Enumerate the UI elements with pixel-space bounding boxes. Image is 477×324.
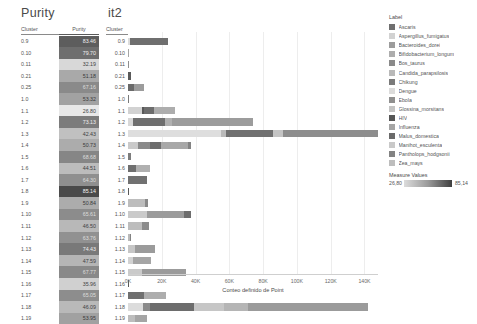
purity-row[interactable]: 1.342.43 — [21, 128, 99, 140]
legend-item[interactable]: Ascaris — [389, 23, 475, 32]
chart-row[interactable]: 1.4 — [106, 139, 380, 151]
bar-segment[interactable] — [128, 130, 221, 137]
chart-row-bar[interactable] — [128, 199, 380, 206]
chart-row-bar[interactable] — [128, 142, 380, 149]
legend-item[interactable]: Aspergillus_fumigatus — [389, 32, 475, 41]
chart-row-bar[interactable] — [128, 234, 380, 241]
bar-segment[interactable] — [150, 142, 161, 149]
chart-row[interactable]: 1.8 — [106, 186, 380, 198]
chart-row[interactable]: 1.2 — [106, 116, 380, 128]
purity-row[interactable]: 1.053.32 — [21, 93, 99, 105]
legend-item[interactable]: Bos_taurus — [389, 59, 475, 68]
bar-segment[interactable] — [143, 303, 150, 310]
bar-segment[interactable] — [128, 107, 142, 114]
chart-row-bar[interactable] — [128, 245, 380, 252]
chart-row[interactable]: 1.6 — [106, 163, 380, 175]
purity-row[interactable]: 1.568.68 — [21, 151, 99, 163]
purity-row[interactable]: 1.950.84 — [21, 197, 99, 209]
chart-row-bar[interactable] — [128, 118, 380, 125]
bar-segment[interactable] — [138, 142, 150, 149]
bar-segment[interactable] — [128, 165, 136, 172]
legend-item[interactable]: Malus_domestica — [389, 132, 475, 141]
legend-item[interactable]: Ebola — [389, 95, 475, 104]
chart-row-bar[interactable] — [128, 61, 380, 68]
bar-segment[interactable] — [135, 245, 155, 252]
purity-row[interactable]: 1.126.80 — [21, 105, 99, 117]
chart-row-bar[interactable] — [128, 211, 380, 218]
bar-segment[interactable] — [128, 245, 135, 252]
chart-row-bar[interactable] — [128, 153, 380, 160]
legend-item[interactable]: Candida_parapsilosis — [389, 68, 475, 77]
purity-row[interactable]: 0.2151.18 — [21, 70, 99, 82]
chart-row-bar[interactable] — [128, 222, 380, 229]
bar-segment[interactable] — [144, 107, 155, 114]
chart-row-bar[interactable] — [128, 188, 380, 195]
bar-segment[interactable] — [128, 142, 138, 149]
bar-segment[interactable] — [150, 303, 194, 310]
purity-row[interactable]: 1.1846.09 — [21, 301, 99, 313]
chart-row-bar[interactable] — [128, 72, 380, 79]
chart-row[interactable]: 1.12 — [106, 232, 380, 244]
chart-row[interactable]: 0.25 — [106, 82, 380, 94]
chart-row[interactable]: 1.11 — [106, 220, 380, 232]
bar-segment[interactable] — [128, 222, 142, 229]
chart-row[interactable]: 1.18 — [106, 301, 380, 313]
purity-row[interactable]: 1.1263.76 — [21, 232, 99, 244]
bar-segment[interactable] — [135, 315, 147, 322]
legend-item[interactable]: Influenza — [389, 123, 475, 132]
purity-row[interactable]: 1.1065.61 — [21, 209, 99, 221]
chart-row-bar[interactable] — [128, 107, 380, 114]
chart-row-bar[interactable] — [128, 130, 380, 137]
purity-row[interactable]: 0.2567.16 — [21, 82, 99, 94]
chart-row-bar[interactable] — [128, 257, 380, 264]
bar-segment[interactable] — [283, 130, 378, 137]
bar-segment[interactable] — [128, 315, 135, 322]
purity-row[interactable]: 1.1635.96 — [21, 278, 99, 290]
bar-segment[interactable] — [128, 61, 129, 68]
bar-segment[interactable] — [224, 303, 248, 310]
purity-row[interactable]: 1.644.51 — [21, 163, 99, 175]
legend-item[interactable]: HIV — [389, 113, 475, 122]
purity-row[interactable]: 1.764.30 — [21, 174, 99, 186]
chart-row[interactable]: 1.19 — [106, 313, 380, 324]
bar-segment[interactable] — [226, 130, 273, 137]
chart-row[interactable]: 1.7 — [106, 174, 380, 186]
purity-row[interactable]: 1.885.14 — [21, 186, 99, 198]
legend-item[interactable]: Dengue — [389, 86, 475, 95]
bar-segment[interactable] — [128, 188, 129, 195]
legend-item[interactable]: Chikung — [389, 77, 475, 86]
bar-segment[interactable] — [133, 118, 165, 125]
bar-segment[interactable] — [273, 130, 283, 137]
chart-row-bar[interactable] — [128, 176, 380, 183]
bar-segment[interactable] — [172, 118, 253, 125]
purity-row[interactable]: 0.983.46 — [21, 36, 99, 48]
chart-row-bar[interactable] — [128, 38, 380, 45]
chart-row[interactable]: 0.10 — [106, 47, 380, 59]
bar-segment[interactable] — [128, 176, 147, 183]
legend-item[interactable]: Zea_mays — [389, 159, 475, 168]
bar-segment[interactable] — [145, 199, 148, 206]
bar-segment[interactable] — [128, 153, 131, 160]
chart-row[interactable]: 1.9 — [106, 197, 380, 209]
legend-item[interactable]: Pantholops_hodgsonii — [389, 150, 475, 159]
purity-row[interactable]: 1.1953.95 — [21, 313, 99, 324]
bar-segment[interactable] — [128, 72, 131, 79]
chart-row[interactable]: 1.5 — [106, 151, 380, 163]
chart-row[interactable]: 0.21 — [106, 70, 380, 82]
chart-row-bar[interactable] — [128, 165, 380, 172]
chart-row[interactable]: 0.9 — [106, 36, 380, 48]
bar-segment[interactable] — [128, 95, 129, 102]
purity-row[interactable]: 1.1765.05 — [21, 290, 99, 302]
purity-row[interactable]: 1.1447.59 — [21, 255, 99, 267]
purity-row[interactable]: 0.1132.19 — [21, 59, 99, 71]
bar-segment[interactable] — [188, 142, 191, 149]
legend-item[interactable]: Manihot_esculenta — [389, 141, 475, 150]
bar-segment[interactable] — [128, 303, 143, 310]
chart-row[interactable]: 0.11 — [106, 59, 380, 71]
purity-row[interactable]: 1.450.73 — [21, 139, 99, 151]
bar-segment[interactable] — [134, 84, 144, 91]
chart-row[interactable]: 1.10 — [106, 209, 380, 221]
bar-segment[interactable] — [128, 199, 145, 206]
bar-segment[interactable] — [128, 49, 129, 56]
chart-row[interactable]: 1.1 — [106, 105, 380, 117]
